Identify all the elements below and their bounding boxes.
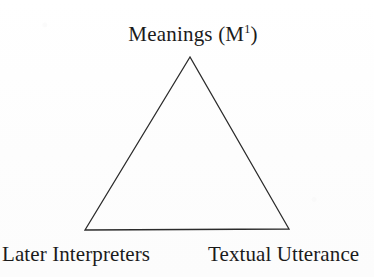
vertex-label-later-interpreters: Later Interpreters [2, 244, 150, 265]
triangle-outline [85, 57, 289, 230]
semiotic-triangle-figure: Meanings (M1) Later Interpreters Textual… [0, 0, 374, 277]
vertex-label-meanings-text: Meanings (M [128, 22, 244, 46]
vertex-label-meanings-suffix: ) [251, 22, 258, 46]
vertex-label-meanings: Meanings (M1) [0, 24, 374, 45]
vertex-label-textual-utterance: Textual Utterance [208, 244, 359, 265]
